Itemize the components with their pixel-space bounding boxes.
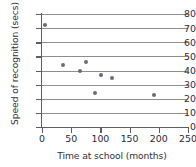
y-axis-tick <box>36 14 41 15</box>
y-axis-tick-label: 70 <box>162 24 196 33</box>
y-axis-tick <box>36 56 41 57</box>
y-axis-tick <box>36 85 41 86</box>
data-point <box>78 69 82 73</box>
y-axis-tick <box>36 99 41 100</box>
data-point <box>110 76 114 80</box>
y-axis-tick-label: 30 <box>162 80 196 89</box>
y-axis-tick-label: 0 <box>162 122 196 131</box>
data-point <box>99 73 103 77</box>
y-axis-tick <box>36 42 41 43</box>
data-point <box>43 23 47 27</box>
y-axis-tick-label: 10 <box>162 108 196 117</box>
y-axis-tick <box>36 71 41 72</box>
data-point <box>84 60 88 64</box>
y-axis-tick-label: 20 <box>162 94 196 103</box>
y-axis-title: Speed of recognition (secs) <box>9 0 20 129</box>
x-axis-tick-label: 250 <box>171 134 196 143</box>
data-point <box>93 91 97 95</box>
y-axis-tick <box>36 127 41 128</box>
y-axis-tick-label: 80 <box>162 9 196 18</box>
data-point <box>61 63 65 67</box>
y-axis-tick <box>36 113 41 114</box>
y-axis-tick-label: 40 <box>162 66 196 75</box>
data-point <box>152 93 156 97</box>
x-axis-title: Time at school (months) <box>28 150 196 161</box>
scatter-chart: Speed of recognition (secs) Time at scho… <box>0 0 196 167</box>
y-axis-tick <box>36 28 41 29</box>
y-axis-tick-label: 50 <box>162 52 196 61</box>
y-axis-tick-label: 60 <box>162 38 196 47</box>
